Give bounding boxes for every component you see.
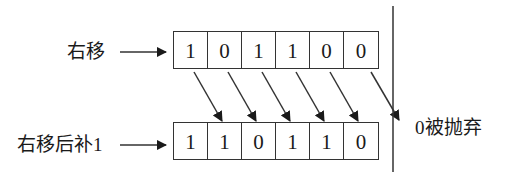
shift-arrow-1 [194, 72, 222, 121]
top-row-label: 右移 [67, 41, 105, 63]
bottom-bit-4: 1 [310, 123, 344, 159]
bottom-bit-1: 1 [208, 123, 242, 159]
shift-arrow-2 [228, 72, 256, 121]
bottom-bit-0: 1 [174, 123, 208, 159]
shift-arrow-3 [262, 72, 290, 121]
top-bit-2: 1 [242, 32, 276, 68]
shift-arrow-4 [296, 72, 324, 121]
discard-note: 0被抛弃 [415, 117, 482, 139]
top-register: 1 0 1 1 0 0 [173, 31, 379, 69]
diagram-lines [0, 0, 505, 193]
top-bit-4: 0 [310, 32, 344, 68]
bottom-bit-5: 0 [344, 123, 378, 159]
shift-arrow-5 [330, 72, 358, 121]
top-bit-5: 0 [344, 32, 378, 68]
bottom-bit-2: 0 [242, 123, 276, 159]
top-bit-0: 1 [174, 32, 208, 68]
bottom-bit-3: 1 [276, 123, 310, 159]
top-bit-3: 1 [276, 32, 310, 68]
bottom-register: 1 1 0 1 1 0 [173, 122, 379, 160]
top-bit-1: 0 [208, 32, 242, 68]
bottom-row-label: 右移后补1 [17, 134, 103, 156]
discard-arrow [371, 72, 399, 120]
